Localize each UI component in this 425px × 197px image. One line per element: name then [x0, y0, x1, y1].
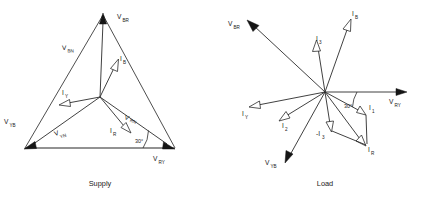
- load-v-ry-arrowhead: [396, 89, 407, 96]
- v-ry-label: V: [153, 155, 158, 162]
- i-b-shaft: [100, 66, 115, 97]
- load-angle-30: 30°: [344, 92, 357, 109]
- v-bn-label-subscript: BN: [67, 48, 73, 53]
- load-neg-i-3-arrowhead: [326, 121, 334, 132]
- load-neg-i-3-label-subscript: 3: [322, 135, 325, 140]
- load-phasor-i-b: I B: [325, 10, 358, 92]
- triangle-side-top-left: [25, 15, 103, 148]
- load-neg-i-3-shaft: [325, 92, 330, 124]
- supply-phasor-v-bn: V BN: [62, 44, 74, 54]
- load-v-yb-shaft: [290, 92, 325, 155]
- load-i-3-label-subscript: 3: [319, 40, 322, 45]
- load-v-yb-label-subscript: YB: [271, 164, 277, 169]
- i-b-arrowhead: [111, 59, 119, 72]
- supply-phasor-v-ry: V RY: [153, 155, 165, 165]
- load-angle-30-arc: [353, 92, 358, 107]
- construction-line-i1-to-ir: [366, 115, 367, 144]
- i-r-label-subscript: R: [113, 132, 117, 137]
- load-v-br-label-subscript: BR: [234, 25, 241, 30]
- load-i-3-label: I: [316, 35, 318, 42]
- load-i-1-label-subscript: 1: [372, 109, 375, 114]
- load-i-3-shaft: [318, 48, 325, 92]
- supply-phasor-v-yb: V YB: [4, 118, 16, 128]
- phasor-diagram-figure: V BR V BN V YN V RN V YB V: [0, 0, 425, 197]
- i-r-label: I: [110, 127, 112, 134]
- load-angle-30-label: 30°: [344, 103, 352, 109]
- load-i-2-arrowhead: [279, 112, 290, 122]
- v-br-label: V: [117, 13, 122, 20]
- load-i-b-label-subscript: B: [355, 15, 358, 20]
- v-yb-label-subscript: YB: [10, 123, 16, 128]
- load-v-br-label: V: [228, 20, 233, 27]
- load-i-1-label: I: [369, 104, 371, 111]
- i-y-label: I: [62, 89, 64, 96]
- v-bn-label: V: [62, 44, 67, 51]
- load-i-2-label-subscript: 2: [285, 127, 288, 132]
- v-rn-arrowhead: [163, 142, 176, 149]
- load-i-y-label-subscript: Y: [245, 115, 248, 120]
- load-panel: V BR V RY V YB I B I 3: [228, 10, 407, 188]
- supply-panel: V BR V BN V YN V RN V YB V: [4, 13, 175, 188]
- i-b-label: I: [120, 55, 122, 62]
- load-i-b-label: I: [352, 10, 354, 17]
- load-i-b-arrowhead: [343, 19, 351, 32]
- load-v-yb-label: V: [265, 159, 270, 166]
- load-v-ry-label: V: [389, 98, 394, 105]
- v-yb-label: V: [4, 118, 9, 125]
- load-phasor-v-ry: V RY: [325, 89, 407, 108]
- load-i-2-label: I: [282, 122, 284, 129]
- supply-angle-30: 30°: [135, 131, 149, 149]
- supply-delta-triangle: [25, 15, 175, 148]
- i-b-label-subscript: B: [123, 60, 126, 65]
- load-phasor-i-2: I 2: [279, 92, 325, 132]
- v-rn-label-subscript: RN: [129, 118, 137, 125]
- load-i-1-arrowhead: [357, 106, 367, 115]
- load-i-y-label: I: [242, 110, 244, 117]
- load-phasor-v-br: V BR: [228, 20, 325, 92]
- triangle-side-top-right: [103, 15, 175, 148]
- v-br-label-subscript: BR: [123, 18, 130, 23]
- v-ry-label-subscript: RY: [159, 160, 165, 165]
- load-v-br-shaft: [253, 25, 325, 92]
- supply-phasor-i-b: I B: [100, 55, 126, 97]
- supply-caption: Supply: [89, 179, 112, 188]
- load-v-br-arrowhead: [247, 20, 259, 32]
- i-y-label-subscript: Y: [65, 94, 68, 99]
- load-i-1-shaft: [325, 92, 360, 111]
- v-yn-arrowhead: [24, 142, 37, 150]
- load-i-r-label: I: [368, 146, 370, 153]
- load-neg-i-3-label: -I: [316, 130, 320, 137]
- load-i-y-arrowhead: [249, 101, 261, 109]
- load-i-b-shaft: [325, 27, 348, 92]
- load-v-ry-label-subscript: RY: [395, 103, 401, 108]
- v-yn-label-subscript: YN: [59, 133, 67, 140]
- v-br-shaft: [100, 22, 103, 97]
- load-phasor-i-3: I 3: [313, 35, 326, 92]
- angle-30-label: 30°: [135, 138, 143, 144]
- load-i-r-label-subscript: R: [371, 151, 375, 156]
- i-y-arrowhead: [59, 100, 71, 107]
- angle-30-arc: [143, 131, 149, 149]
- supply-phasor-i-y: I Y: [59, 89, 100, 107]
- load-i-r-shaft: [325, 92, 360, 139]
- load-phasor-neg-i-3: -I 3: [316, 92, 334, 140]
- load-caption: Load: [317, 179, 333, 188]
